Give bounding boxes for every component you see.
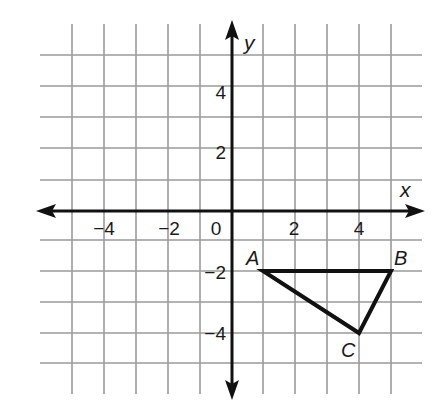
y-tick-label: −2 xyxy=(204,262,226,283)
y-axis-label: y xyxy=(242,31,256,54)
coordinate-plane: x y −4 −2 0 2 4 4 2 −2 −4 A B C xyxy=(0,0,443,420)
x-tick-label: 2 xyxy=(289,218,300,239)
x-axis-label: x xyxy=(399,178,412,201)
x-tick-label: −2 xyxy=(158,218,180,239)
y-tick-label: 2 xyxy=(215,142,226,163)
y-tick-label: 4 xyxy=(215,82,226,103)
x-tick-labels: −4 −2 0 2 4 xyxy=(93,218,365,239)
x-tick-label: 4 xyxy=(354,218,365,239)
triangle-abc: A B C xyxy=(245,247,407,361)
axes: x y xyxy=(36,20,425,400)
x-tick-label: −4 xyxy=(93,218,115,239)
x-tick-label: 0 xyxy=(211,218,222,239)
vertex-label-a: A xyxy=(245,247,259,269)
vertex-label-b: B xyxy=(394,247,407,269)
y-tick-label: −4 xyxy=(204,323,226,344)
y-tick-labels: 4 2 −2 −4 xyxy=(204,82,226,344)
vertex-label-c: C xyxy=(341,339,356,361)
